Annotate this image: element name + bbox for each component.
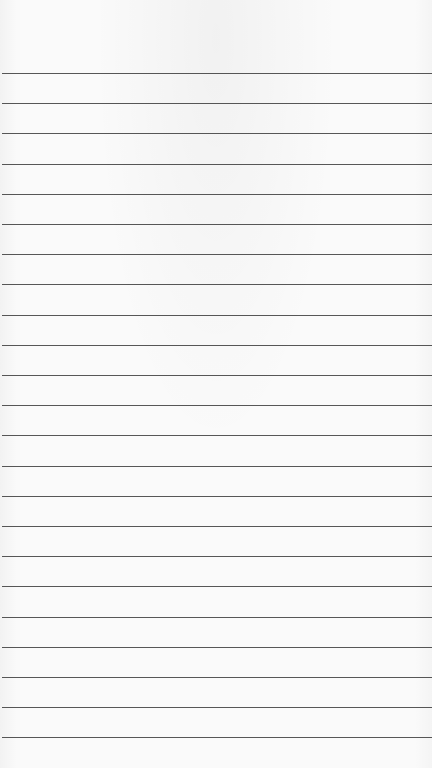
ruled-line bbox=[2, 435, 432, 436]
ruled-line bbox=[2, 315, 432, 316]
ruled-line bbox=[2, 677, 432, 678]
ruled-line bbox=[2, 496, 432, 497]
ruled-line bbox=[2, 586, 432, 587]
lined-paper-sheet bbox=[0, 0, 432, 768]
ruled-line bbox=[2, 466, 432, 467]
ruled-line bbox=[2, 707, 432, 708]
ruled-line bbox=[2, 526, 432, 527]
ruled-line bbox=[2, 73, 432, 74]
ruled-line bbox=[2, 103, 432, 104]
ruled-line bbox=[2, 133, 432, 134]
ruled-line bbox=[2, 284, 432, 285]
ruled-line bbox=[2, 647, 432, 648]
ruled-line bbox=[2, 375, 432, 376]
ruled-line bbox=[2, 405, 432, 406]
ruled-line bbox=[2, 254, 432, 255]
ruled-line bbox=[2, 737, 432, 738]
ruled-line bbox=[2, 224, 432, 225]
ruled-line bbox=[2, 164, 432, 165]
ruled-line bbox=[2, 194, 432, 195]
ruled-line bbox=[2, 345, 432, 346]
ruled-line bbox=[2, 556, 432, 557]
ruled-line bbox=[2, 617, 432, 618]
